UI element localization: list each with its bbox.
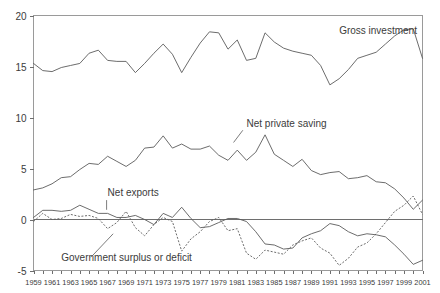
x-tick-label: 1959 (25, 278, 41, 287)
series-label-net-private-saving: Net private saving (247, 118, 327, 129)
plot-frame (34, 16, 423, 271)
series-line-net-private-saving (34, 135, 423, 209)
x-tick-label: 1971 (136, 278, 152, 287)
y-tick-label: 20 (15, 11, 27, 22)
x-tick-label: 1973 (155, 278, 171, 287)
series-line-gross-investment (34, 29, 423, 85)
series-label-net-exports: Net exports (108, 187, 159, 198)
x-tick-label: 1989 (303, 278, 319, 287)
y-tick-label: 0 (21, 215, 27, 226)
x-tick-label: 1979 (211, 278, 227, 287)
x-tick-label: 1995 (359, 278, 375, 287)
series-annotations: Gross investmentNet private savingNet ex… (61, 25, 417, 263)
y-tick-label: 5 (21, 164, 27, 175)
x-tick-label: 1991 (322, 278, 338, 287)
x-tick-label: 1975 (173, 278, 189, 287)
x-axis-tick-labels: 1959196119631965196719691971197319751977… (25, 278, 430, 287)
x-tick-label: 1961 (44, 278, 60, 287)
x-tick-label: 1965 (81, 278, 97, 287)
x-tick-label: 1985 (266, 278, 282, 287)
x-tick-label: 1993 (340, 278, 356, 287)
annotation-leader-line (234, 130, 243, 142)
x-tick-label: 2001 (414, 278, 430, 287)
chart-figure: -505101520 19591961196319651967196919711… (0, 0, 440, 293)
x-tick-label: 1963 (62, 278, 78, 287)
x-tick-label: 1977 (192, 278, 208, 287)
x-tick-label: 1981 (229, 278, 245, 287)
x-tick-label: 1983 (248, 278, 264, 287)
y-tick-label: 15 (15, 62, 27, 73)
series-label-gross-investment: Gross investment (339, 25, 417, 36)
x-tick-label: 1997 (377, 278, 393, 287)
x-tick-label: 1987 (285, 278, 301, 287)
series-label-government-surplus-or-deficit: Government surplus or deficit (61, 252, 192, 263)
y-tick-label: -5 (18, 266, 27, 277)
y-tick-label: 10 (15, 113, 27, 124)
x-tick-label: 1969 (118, 278, 134, 287)
chart-plot-svg: -505101520 19591961196319651967196919711… (0, 0, 440, 293)
y-axis-ticks (30, 17, 34, 272)
x-tick-label: 1999 (396, 278, 412, 287)
x-axis-ticks (35, 271, 424, 275)
series-lines (34, 29, 423, 266)
x-tick-label: 1967 (99, 278, 115, 287)
y-axis-tick-labels: -505101520 (15, 11, 27, 277)
